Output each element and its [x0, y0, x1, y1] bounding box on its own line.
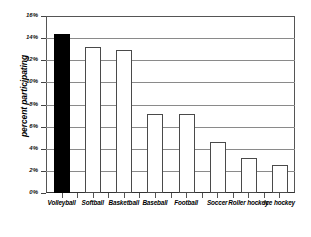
x-tick-mark [139, 193, 140, 198]
y-tick-label: 6% [29, 123, 38, 129]
bar-soccer [210, 142, 226, 193]
x-tick-mark [93, 193, 94, 198]
y-tick-label: 8% [29, 101, 38, 107]
x-tick-mark [108, 193, 109, 198]
x-tick-mark [233, 193, 234, 198]
x-tick-mark [279, 193, 280, 198]
y-tick-label: 16% [26, 12, 38, 18]
y-axis-title: percent participating [19, 31, 29, 161]
x-tick-mark [155, 193, 156, 198]
bar-football [179, 114, 195, 193]
x-tick-mark [186, 193, 187, 198]
x-tick-mark [124, 193, 125, 198]
x-tick-mark [217, 193, 218, 198]
y-tick-label: 4% [29, 145, 38, 151]
x-axis-labels: VolleyballSoftballBasketballBaseballFoot… [46, 199, 295, 213]
y-tick-label: 10% [26, 78, 38, 84]
y-tick-label: 2% [29, 167, 38, 173]
x-tick-mark [171, 193, 172, 198]
x-tick-mark [62, 193, 63, 198]
bar-basketball [116, 50, 132, 193]
bar-roller-hockey [241, 158, 257, 193]
x-tick-mark [202, 193, 203, 198]
y-tick-label: 12% [26, 56, 38, 62]
bar-chart: percent participating 16%14%12%10%8%6%4%… [0, 0, 311, 237]
x-tick-mark [77, 193, 78, 198]
bars-group [46, 16, 295, 193]
y-tick-label: 14% [26, 34, 38, 40]
y-tick-label: 0% [29, 189, 38, 195]
x-tick-mark [248, 193, 249, 198]
bar-softball [85, 47, 101, 193]
bar-volleyball [54, 34, 70, 193]
bar-baseball [147, 114, 163, 193]
x-tick-mark [264, 193, 265, 198]
x-label-ice-hockey: Ice hockey [249, 199, 309, 206]
bar-ice-hockey [272, 165, 288, 193]
